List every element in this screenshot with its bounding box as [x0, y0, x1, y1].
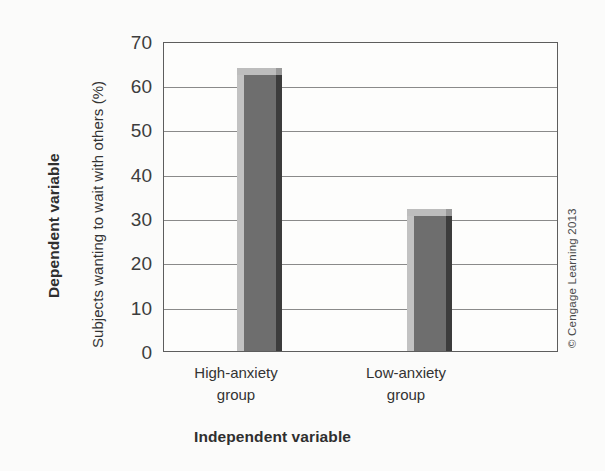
x-category-low-anxiety: Low-anxiety group: [311, 362, 501, 406]
y-axis-tick-labels: 70 60 50 40 30 20 10 0: [0, 0, 163, 471]
x-category-label-line2: group: [141, 384, 331, 406]
bar-low-anxiety-group[interactable]: [407, 215, 452, 351]
y-tick-40: 40: [0, 166, 152, 185]
copyright-credit: © Cengage Learning 2013: [566, 208, 578, 348]
y-tick-30: 30: [0, 210, 152, 229]
bar-right-shadow: [276, 74, 282, 351]
y-tick-50: 50: [0, 121, 152, 140]
y-tick-10: 10: [0, 299, 152, 318]
y-tick-70: 70: [0, 33, 152, 52]
bar-top-right-face: [446, 209, 452, 216]
plot-area: [163, 42, 558, 352]
x-category-label-line1: High-anxiety: [194, 364, 277, 381]
bar-left-highlight: [237, 74, 244, 351]
gridline-60: [164, 87, 557, 88]
gridline-50: [164, 131, 557, 132]
bar-high-anxiety-group[interactable]: [237, 74, 282, 351]
gridline-20: [164, 264, 557, 265]
bar-top-right-face: [276, 68, 282, 75]
x-category-label-line2: group: [311, 384, 501, 406]
bar-left-highlight: [407, 215, 414, 351]
y-tick-0: 0: [0, 343, 152, 362]
gridline-40: [164, 176, 557, 177]
bar-chart-figure: Dependent variable Subjects wanting to w…: [0, 0, 605, 471]
x-axis-title: Independent variable: [0, 428, 605, 446]
gridline-30: [164, 220, 557, 221]
gridline-10: [164, 309, 557, 310]
x-category-label-line1: Low-anxiety: [366, 364, 446, 381]
bar-right-shadow: [446, 215, 452, 351]
x-category-high-anxiety: High-anxiety group: [141, 362, 331, 406]
y-tick-60: 60: [0, 77, 152, 96]
y-tick-20: 20: [0, 254, 152, 273]
